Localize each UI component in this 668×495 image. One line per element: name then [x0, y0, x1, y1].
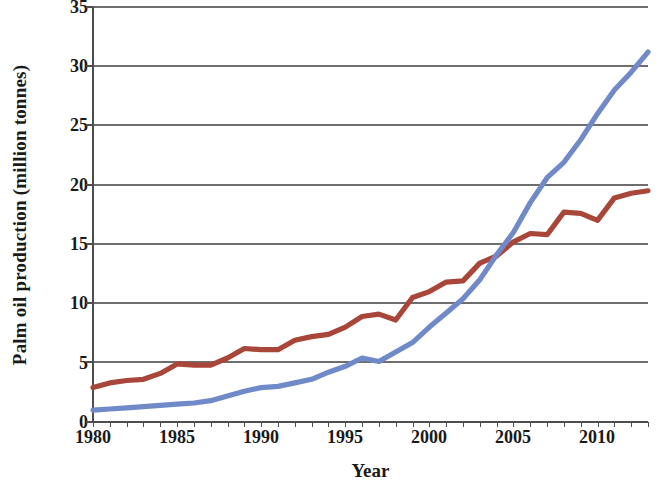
palm-oil-production-chart: Palm oil production (million tonnes) 35 …	[0, 0, 668, 495]
x-tick-label-1995: 1995	[310, 427, 380, 447]
x-tick-label-1990: 1990	[226, 427, 296, 447]
x-tick-label-2005: 2005	[478, 427, 548, 447]
x-tick-label-2000: 2000	[394, 427, 464, 447]
x-axis-tick-labels: 1980 1985 1990 1995 2000 2005 2010	[0, 0, 668, 460]
x-tick-label-2010: 2010	[562, 427, 632, 447]
x-tick-label-1985: 1985	[142, 427, 212, 447]
x-tick-label-1980: 1980	[58, 427, 128, 447]
x-axis-label: Year	[93, 460, 648, 482]
